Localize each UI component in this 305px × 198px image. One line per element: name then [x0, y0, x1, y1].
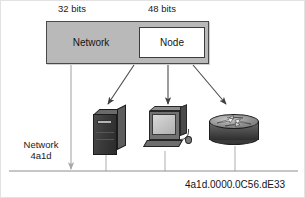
ipx-address-diagram: 32 bits 48 bits Network Node — [0, 0, 305, 198]
node-bits-caption: 48 bits — [148, 4, 176, 15]
network-field-label: Network — [73, 37, 110, 49]
network-field: Network — [47, 22, 135, 63]
network-bits-caption: 32 bits — [58, 4, 86, 15]
server-drive-bay — [97, 120, 112, 124]
monitor-screen — [152, 114, 176, 135]
node-to-router-arrow — [193, 65, 226, 104]
network-name-label: Network 4a1d — [13, 140, 69, 162]
node-to-server-arrow — [108, 65, 134, 104]
full-address-label: 4a1d.0000.0C56.dE33 — [185, 179, 285, 191]
network-name-line1: Network — [24, 139, 59, 150]
keyboard — [143, 140, 183, 147]
node-field-label: Node — [160, 37, 184, 49]
server-panel-line — [96, 132, 114, 133]
server-panel-line — [96, 139, 114, 140]
router-icon — [209, 114, 259, 148]
router-direction-arrows — [209, 114, 259, 130]
server-tower-icon — [93, 109, 127, 155]
network-name-line2: 4a1d — [13, 151, 69, 162]
desktop-computer-icon — [147, 109, 195, 155]
node-field: Node — [139, 27, 205, 58]
address-bar: Network Node — [46, 21, 209, 64]
server-side-face — [117, 105, 126, 150]
mouse — [185, 136, 192, 144]
